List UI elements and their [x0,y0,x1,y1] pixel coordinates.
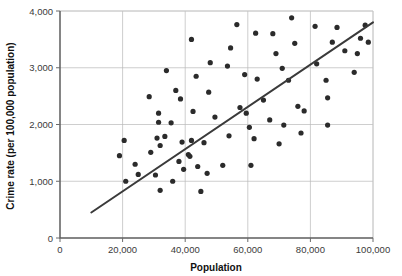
data-point [228,45,233,50]
data-point [162,134,167,139]
data-point [133,162,138,167]
data-point [237,105,242,110]
data-point [181,167,186,172]
data-point [330,40,335,45]
data-point [205,171,210,176]
data-point [242,72,247,77]
data-point [366,40,371,45]
data-point [194,74,199,79]
data-point [273,51,278,56]
data-point [248,163,253,168]
x-tick-label: 40,000 [171,244,200,255]
data-points-group [117,15,371,194]
data-point [325,122,330,127]
data-point [187,154,192,159]
data-point [195,164,200,169]
x-axis-title: Population [190,262,242,273]
data-point [190,109,195,114]
data-point [153,172,158,177]
x-tick-label: 60,000 [233,244,262,255]
data-point [201,140,206,145]
data-point [164,68,169,73]
x-tick-label: 20,000 [108,244,137,255]
data-point [117,153,122,158]
data-point [225,63,230,68]
data-point [255,77,260,82]
data-point [154,136,159,141]
data-point [234,22,239,27]
data-point [226,133,231,138]
x-tick-label: 100,000 [356,244,390,255]
x-tick-labels-group: 020,00040,00060,00080,000100,000 [57,244,390,255]
data-point [325,95,330,100]
data-point [148,150,153,155]
data-point [198,189,203,194]
y-tick-label: 3,000 [29,62,53,73]
data-point [281,122,286,127]
data-point [158,188,163,193]
data-point [122,138,127,143]
data-point [289,15,294,20]
data-point [267,117,272,122]
data-point [277,141,282,146]
data-point [158,143,163,148]
data-point [136,172,141,177]
data-point [280,66,285,71]
data-point [156,111,161,116]
data-point [147,94,152,99]
data-point [302,108,307,113]
y-axis-title: Crime rate (per 100,000 population) [5,42,16,209]
y-tick-label: 1,000 [29,176,53,187]
x-tick-label: 0 [57,244,62,255]
data-point [178,96,183,101]
data-point [169,120,174,125]
data-point [206,90,211,95]
data-point [292,41,297,46]
data-point [295,104,300,109]
data-point [355,51,360,56]
data-point [189,138,194,143]
data-point [170,179,175,184]
data-point [208,60,213,65]
y-tick-labels-group: 01,0002,0003,0004,000 [29,6,53,244]
data-point [173,88,178,93]
data-point [189,37,194,42]
data-point [156,120,161,125]
chart-canvas: 020,00040,00060,00080,000100,000 01,0002… [0,0,402,276]
trendline-group [91,22,373,212]
data-point [123,179,128,184]
data-point [179,139,184,144]
y-tick-label: 2,000 [29,119,53,130]
y-tick-label: 0 [48,233,53,244]
data-point [352,70,357,75]
data-point [176,159,181,164]
data-point [212,115,217,120]
data-point [247,125,252,130]
y-tick-label: 4,000 [29,6,53,17]
data-point [251,136,256,141]
data-point [253,31,258,36]
data-point [220,163,225,168]
regression-line [91,22,373,212]
scatter-chart-figure: 020,00040,00060,00080,000100,000 01,0002… [0,0,402,276]
x-tick-label: 80,000 [296,244,325,255]
data-point [323,78,328,83]
data-point [358,36,363,41]
data-point [270,31,275,36]
data-point [244,111,249,116]
data-point [312,24,317,29]
data-point [334,25,339,30]
data-point [298,130,303,135]
data-point [342,48,347,53]
